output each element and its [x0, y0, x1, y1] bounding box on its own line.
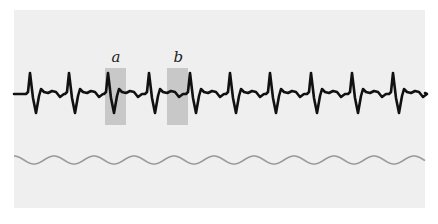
- ecg-diagram: a b: [0, 0, 438, 224]
- highlight-label-a: a: [112, 48, 121, 66]
- reference-wave: [14, 156, 425, 164]
- highlight-label-b: b: [174, 48, 184, 66]
- ecg-trace: [14, 73, 427, 113]
